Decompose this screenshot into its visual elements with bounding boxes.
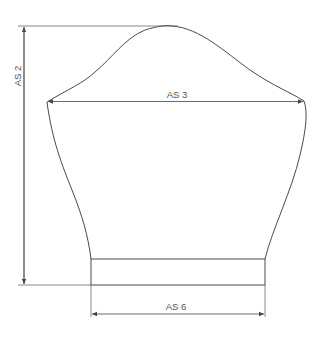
left-side-seam — [47, 102, 91, 259]
dimension-as6: AS 6 — [92, 301, 264, 314]
as3-label: AS 3 — [167, 89, 188, 100]
right-side-seam — [265, 101, 306, 259]
sleeve-pattern-diagram: AS 2 AS 3 AS 6 — [0, 0, 317, 358]
as2-label: AS 2 — [12, 66, 23, 87]
as6-label: AS 6 — [166, 301, 187, 312]
cuff-band — [91, 259, 265, 285]
dimension-as3: AS 3 — [48, 89, 303, 102]
dimension-as2: AS 2 — [12, 27, 24, 284]
